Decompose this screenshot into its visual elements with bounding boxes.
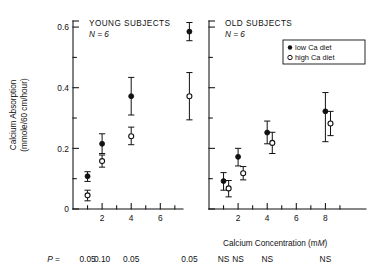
x-tick-label: 8 xyxy=(323,213,328,223)
x-tick-label: 2 xyxy=(100,213,105,223)
y-axis-label-line2: (mmole/60 cm/hour) xyxy=(20,78,29,152)
marker-filled-circle xyxy=(323,109,328,114)
marker-open-circle xyxy=(187,94,192,99)
panel-title-young: YOUNG SUBJECTS xyxy=(89,19,170,28)
datapoint-old-low-Ca-diet-8 xyxy=(322,93,328,142)
marker-filled-circle xyxy=(100,141,105,146)
datapoint-young-high-Ca-diet-4 xyxy=(128,127,134,145)
datapoint-young-low-Ca-diet-4 xyxy=(128,77,134,115)
significance-label-old-1: NS xyxy=(218,254,230,264)
marker-open-circle xyxy=(85,193,90,198)
marker-filled-circle xyxy=(85,174,90,179)
x-tick-label: 4 xyxy=(265,213,270,223)
x-tick-label: 6 xyxy=(294,213,299,223)
datapoint-young-low-Ca-diet-1 xyxy=(84,172,90,182)
marker-open-circle xyxy=(226,186,231,191)
marker-open-circle xyxy=(129,134,134,139)
significance-label-young-4: 0.05 xyxy=(123,254,140,264)
marker-filled-circle xyxy=(265,130,270,135)
datapoint-young-high-Ca-diet-8 xyxy=(186,73,192,120)
y-tick-label: 0.6 xyxy=(57,22,69,32)
marker-open-circle xyxy=(241,171,246,176)
x-tick-label: 4 xyxy=(129,213,134,223)
legend-label-low-ca-diet: low Ca diet xyxy=(295,43,332,52)
datapoint-young-high-Ca-diet-2 xyxy=(99,155,105,167)
x-axis-label: Calcium Concentration (mM) xyxy=(223,239,327,248)
y-axis-label: Calcium Absorption(mmole/60 cm/hour) xyxy=(9,78,29,152)
datapoint-old-high-Ca-diet-4.35 xyxy=(269,132,275,153)
significance-label-young-2: 0.10 xyxy=(94,254,111,264)
figure-container: 00.20.40.62462468YOUNG SUBJECTSN = 6OLD … xyxy=(0,0,374,268)
legend-marker-filled-circle xyxy=(288,45,292,49)
x-tick-label: 2 xyxy=(236,213,241,223)
y-tick-label: 0 xyxy=(64,204,69,214)
marker-open-circle xyxy=(328,121,333,126)
y-tick-label: 0.2 xyxy=(57,144,69,154)
datapoint-old-high-Ca-diet-1.35 xyxy=(226,180,232,196)
marker-filled-circle xyxy=(129,94,134,99)
datapoint-old-high-Ca-diet-2.35 xyxy=(240,167,246,180)
significance-label-old-4: NS xyxy=(261,254,273,264)
significance-label-young-8: 0.05 xyxy=(181,254,198,264)
marker-open-circle xyxy=(100,159,105,164)
datapoint-old-high-Ca-diet-8.35 xyxy=(327,111,333,135)
datapoint-old-low-Ca-diet-2 xyxy=(235,148,241,166)
legend-label-high-ca-diet: high Ca diet xyxy=(295,53,334,62)
marker-filled-circle xyxy=(187,29,192,34)
significance-label-old-8: NS xyxy=(320,254,332,264)
x-tick-label: 6 xyxy=(158,213,163,223)
significance-label-old-2: NS xyxy=(232,254,244,264)
y-tick-label: 0.4 xyxy=(57,83,69,93)
panel-n-label-old: N = 6 xyxy=(225,30,245,39)
panel-n-label-young: N = 6 xyxy=(89,30,109,39)
y-axis-label-line1: Calcium Absorption xyxy=(9,79,18,150)
chart-svg: 00.20.40.62462468YOUNG SUBJECTSN = 6OLD … xyxy=(0,0,374,268)
marker-filled-circle xyxy=(221,179,226,184)
legend-marker-open-circle xyxy=(288,55,292,59)
significance-prefix: P = xyxy=(47,254,60,264)
marker-filled-circle xyxy=(236,154,241,159)
datapoint-young-high-Ca-diet-1 xyxy=(84,190,90,201)
datapoint-young-low-Ca-diet-2 xyxy=(99,134,105,154)
panel-title-old: OLD SUBJECTS xyxy=(225,19,292,28)
datapoint-young-low-Ca-diet-8 xyxy=(186,23,192,41)
marker-open-circle xyxy=(270,140,275,145)
